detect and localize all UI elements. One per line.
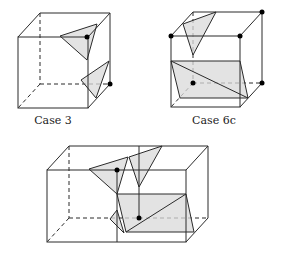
marked-vertex (108, 82, 113, 87)
marked-vertex (260, 10, 265, 15)
case3-triangle-bottom (81, 61, 109, 98)
marked-vertex (238, 34, 243, 39)
case3-label: Case 3 (34, 114, 72, 127)
hidden-edge (47, 218, 69, 242)
edge (186, 146, 208, 170)
edge (18, 13, 40, 37)
marching-cubes-diagram: Case 3 Case 6c (0, 0, 282, 256)
case6c-triangle (183, 12, 216, 55)
case6c-label: Case 6c (192, 114, 236, 127)
combined-figure (47, 146, 208, 242)
marked-vertex (260, 81, 265, 86)
marked-vertex (191, 81, 196, 86)
case6c-figure: Case 6c (169, 10, 265, 128)
combined-triangle-top-left (89, 157, 128, 194)
marked-vertex (85, 35, 90, 40)
marked-vertex (115, 168, 120, 173)
case3-triangle-top (60, 24, 97, 60)
combined-triangle-top-right (129, 146, 162, 187)
hidden-edge (18, 84, 40, 108)
edge (240, 12, 262, 36)
case3-figure: Case 3 (18, 13, 113, 127)
marked-vertex (169, 34, 174, 39)
edge (88, 13, 110, 37)
edge (47, 146, 69, 170)
marked-vertex (137, 216, 142, 221)
